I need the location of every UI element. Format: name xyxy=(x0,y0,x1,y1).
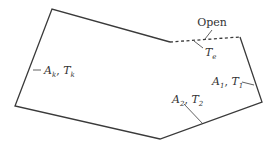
enclosure-diagram: Open Te Ak, Tk A1, T1 A2, T2 xyxy=(0,0,272,146)
leader-a1 xyxy=(242,82,254,85)
leader-open xyxy=(205,30,212,39)
surface-k-label: Ak, Tk xyxy=(43,64,75,79)
surroundings-temp-label: Te xyxy=(205,46,217,61)
leader-te xyxy=(194,41,203,48)
surface-2-label: A2, T2 xyxy=(171,93,204,108)
surface-1-label: A1, T1 xyxy=(211,75,243,90)
open-side xyxy=(170,37,240,42)
open-label: Open xyxy=(197,16,227,29)
